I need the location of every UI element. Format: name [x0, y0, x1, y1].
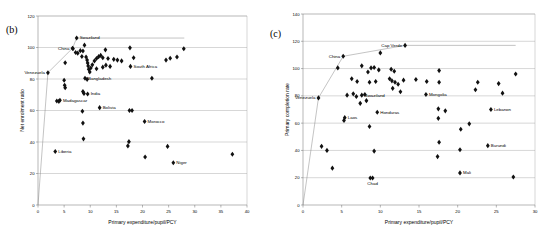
- data-point-marker: [392, 69, 396, 74]
- data-point-marker: [80, 54, 84, 59]
- data-point-marker: [476, 80, 480, 85]
- data-point-marker: [132, 55, 136, 60]
- data-point-marker: [474, 87, 478, 92]
- data-point-marker: [104, 47, 108, 52]
- data-point-label: Swaziland: [365, 93, 386, 98]
- data-point-marker: [378, 50, 382, 55]
- x-tick-label: 10: [378, 209, 383, 214]
- data-point-marker: [369, 65, 373, 70]
- data-point-marker: [46, 70, 50, 75]
- data-point-label: Venezuela: [295, 95, 316, 100]
- data-point-marker: [86, 91, 90, 96]
- data-point-marker: [75, 35, 79, 40]
- x-tick-label: 20: [455, 209, 460, 214]
- data-point-marker: [182, 46, 186, 51]
- data-point-marker: [459, 127, 463, 132]
- y-tick-label: 60: [295, 121, 300, 126]
- data-point-label: Morocco: [148, 119, 165, 124]
- data-point-label: China: [58, 46, 70, 51]
- x-tick-label: 30: [192, 209, 197, 214]
- x-tick-label: 20: [140, 209, 145, 214]
- data-point-label: Venezuela: [24, 70, 45, 75]
- panel-c-plot: 020406080100120140051015202530VenezuelaC…: [268, 0, 543, 245]
- data-point-marker: [317, 95, 321, 100]
- panel-b: (b) 0204060801001200510152025303540Venez…: [0, 0, 268, 245]
- data-point-marker: [358, 101, 362, 106]
- x-tick-label: 25: [166, 209, 171, 214]
- data-point-label: Chad: [367, 181, 378, 186]
- data-point-label: China: [329, 54, 341, 59]
- data-point-marker: [414, 77, 418, 82]
- data-point-marker: [458, 147, 462, 152]
- data-point-marker: [341, 54, 345, 59]
- data-point-marker: [458, 170, 462, 175]
- panel-c-label: (c): [270, 28, 281, 39]
- data-point-marker: [81, 109, 85, 114]
- data-point-marker: [360, 93, 364, 98]
- data-point-marker: [467, 121, 471, 126]
- data-point-marker: [399, 89, 403, 94]
- data-point-marker: [372, 149, 376, 154]
- data-point-marker: [501, 91, 505, 96]
- data-point-marker: [168, 56, 172, 61]
- y-axis-title: Primary completion rate: [284, 83, 290, 136]
- data-point-marker: [108, 64, 112, 69]
- data-point-marker: [374, 79, 378, 84]
- data-point-marker: [393, 80, 397, 85]
- data-point-marker: [345, 93, 349, 98]
- efficiency-frontier-line: [303, 45, 516, 205]
- data-point-label: Mongolia: [429, 92, 447, 97]
- data-point-marker: [377, 67, 381, 72]
- panel-b-label: (b): [6, 24, 18, 35]
- data-point-marker: [437, 140, 441, 145]
- data-point-marker: [330, 166, 334, 171]
- data-point-marker: [368, 124, 372, 129]
- panel-b-plot: 0204060801001200510152025303540Venezuela…: [0, 0, 268, 245]
- x-tick-label: 5: [63, 209, 66, 214]
- data-point-marker: [230, 152, 234, 157]
- data-point-label: Honduras: [380, 110, 400, 115]
- data-point-marker: [486, 143, 490, 148]
- data-point-label: South Africa: [133, 64, 157, 69]
- y-tick-label: 140: [293, 12, 301, 17]
- data-point-label: Liberia: [58, 149, 72, 154]
- data-point-marker: [391, 86, 395, 91]
- data-point-label: Lebanon: [494, 107, 512, 112]
- data-point-marker: [129, 64, 133, 69]
- x-tick-label: 15: [417, 209, 422, 214]
- x-tick-label: 30: [533, 209, 538, 214]
- data-point-marker: [355, 79, 359, 84]
- data-point-label: Madagascar: [63, 98, 88, 103]
- data-point-marker: [104, 63, 108, 68]
- data-point-marker: [511, 174, 515, 179]
- data-point-marker: [175, 54, 179, 59]
- data-point-marker: [375, 110, 379, 115]
- data-point-marker: [368, 80, 372, 85]
- x-tick-label: 35: [219, 209, 224, 214]
- data-point-marker: [365, 98, 369, 103]
- plot-area: 0204060801001200510152025303540Venezuela…: [19, 14, 250, 225]
- data-point-marker: [112, 57, 116, 62]
- data-point-marker: [350, 76, 354, 81]
- data-point-marker: [150, 76, 154, 81]
- y-tick-label: 20: [295, 175, 300, 180]
- data-point-label: Cap Verde: [381, 43, 402, 48]
- data-point-marker: [514, 71, 518, 76]
- x-tick-label: 5: [340, 209, 343, 214]
- data-point-label: Mali: [463, 170, 471, 175]
- x-axis-title: Primary expenditure/pupil/PCY: [385, 219, 454, 225]
- data-point-marker: [166, 144, 170, 149]
- data-point-label: Bolivia: [103, 105, 116, 110]
- data-point-label: Bangladesh: [88, 76, 112, 81]
- data-point-label: Burundi: [491, 143, 506, 148]
- data-point-marker: [143, 119, 147, 124]
- data-point-marker: [126, 143, 130, 148]
- data-point-marker: [497, 81, 501, 86]
- data-point-marker: [143, 154, 147, 159]
- data-point-marker: [351, 91, 355, 96]
- data-point-marker: [436, 106, 440, 111]
- data-point-marker: [443, 108, 447, 113]
- x-tick-label: 0: [302, 209, 305, 214]
- data-point-marker: [82, 136, 86, 141]
- y-tick-label: 40: [295, 148, 300, 153]
